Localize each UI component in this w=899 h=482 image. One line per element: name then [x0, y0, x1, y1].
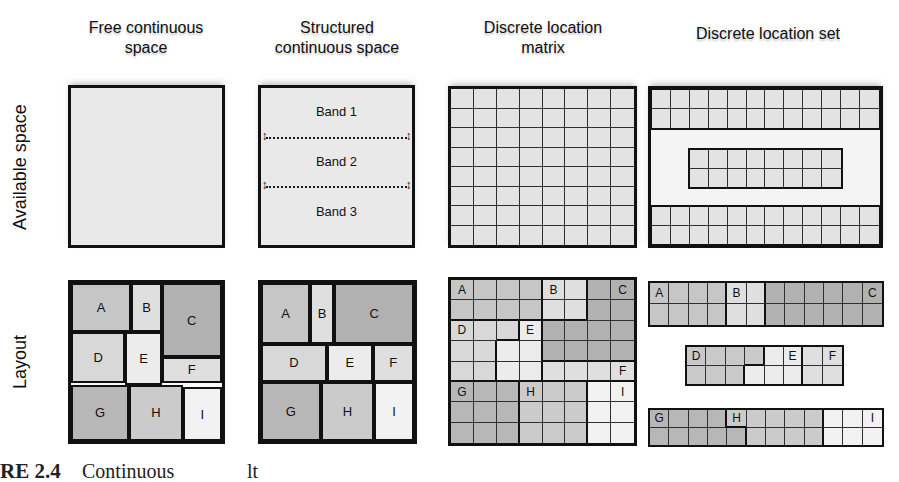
- band-1-label: Band 1: [261, 104, 412, 119]
- grid-cell: [520, 362, 543, 382]
- region-label-cell-c: C: [611, 280, 634, 300]
- grid-cell: [451, 109, 474, 129]
- grid-cell: [863, 428, 882, 446]
- grid-cell: [765, 109, 784, 128]
- region-label-cell-a: A: [650, 283, 669, 304]
- grid-cell: [726, 366, 745, 385]
- grid-cell: [745, 366, 764, 385]
- grid-cell: [588, 362, 611, 382]
- grid-cell: [497, 148, 520, 168]
- grid-cell: [689, 410, 708, 428]
- grid-cell: [803, 207, 822, 225]
- header-line: Structured: [275, 18, 400, 38]
- grid-cell: [588, 226, 611, 246]
- grid-cell: [669, 428, 688, 446]
- grid-cell: [588, 321, 611, 341]
- region-label-cell-b: B: [543, 280, 566, 300]
- layout-free-panel: ABCDEFGHI: [68, 280, 225, 444]
- grid-cell: [708, 410, 727, 428]
- grid-cell: [611, 148, 634, 168]
- grid-cell: [747, 169, 766, 187]
- grid-cell: [824, 410, 843, 428]
- header-line: Discrete location set: [696, 24, 840, 44]
- grid-cell: [520, 89, 543, 109]
- row-label-available-space: Available space: [10, 104, 31, 230]
- grid-cell: [671, 207, 690, 225]
- grid-cell: [765, 366, 784, 385]
- region-label-cell-d: D: [687, 347, 706, 366]
- grid-cell: [803, 109, 822, 128]
- region-label-cell-b: B: [727, 283, 746, 304]
- header-line: matrix: [484, 38, 602, 58]
- layout-block-e: E: [327, 344, 373, 382]
- grid-cell: [520, 423, 543, 443]
- grid-cell: [671, 226, 690, 244]
- grid-cell: [497, 206, 520, 226]
- grid-cell: [747, 410, 766, 428]
- grid-cell: [784, 109, 803, 128]
- grid-cell: [474, 148, 497, 168]
- grid-cell: [843, 428, 862, 446]
- grid-cell: [784, 150, 803, 168]
- grid-cell: [497, 341, 520, 361]
- grid-cell: [766, 283, 785, 304]
- region-label-cell-a: A: [451, 280, 474, 300]
- caption-fragment: RE 2.4: [0, 459, 61, 482]
- grid-cell: [784, 366, 803, 385]
- region-label-cell-f: F: [611, 362, 634, 382]
- grid-cell: [520, 402, 543, 422]
- grid-cell: [652, 90, 671, 109]
- grid-cell: [474, 402, 497, 422]
- layout-block-f: F: [373, 344, 414, 382]
- grid-cell: [747, 109, 766, 128]
- grid-cell: [588, 341, 611, 361]
- grid-cell: [543, 341, 566, 361]
- grid-cell: [803, 90, 822, 109]
- grid-cell: [611, 321, 634, 341]
- layout-set-top-band: ABC: [648, 281, 884, 327]
- grid-cell: [451, 402, 474, 422]
- grid-cell: [543, 423, 566, 443]
- grid-cell: [611, 109, 634, 129]
- layout-block-h: H: [129, 385, 183, 441]
- band-divider-arrow: ↕ ↕: [266, 137, 408, 139]
- grid-cell: [474, 187, 497, 207]
- grid-cell: [822, 207, 841, 225]
- grid-cell: [803, 226, 822, 244]
- grid-cell: [784, 90, 803, 109]
- grid-cell: [543, 402, 566, 422]
- available-set-panel: [648, 86, 883, 248]
- grid-cell: [784, 169, 803, 187]
- grid-cell: [728, 226, 747, 244]
- grid-cell: [474, 280, 497, 300]
- grid-cell: [588, 148, 611, 168]
- grid-cell: [709, 207, 728, 225]
- grid-cell: [689, 304, 708, 325]
- region-label-cell-i: I: [863, 410, 882, 428]
- grid-cell: [706, 347, 725, 366]
- grid-cell: [497, 300, 520, 320]
- header-line: space: [89, 38, 204, 58]
- grid-cell: [822, 150, 841, 168]
- region-label-cell-e: E: [520, 321, 543, 341]
- grid-cell: [863, 304, 882, 325]
- layout-block-a: A: [71, 283, 131, 332]
- grid-cell: [588, 109, 611, 129]
- grid-cell: [588, 423, 611, 443]
- grid-cell: [543, 89, 566, 109]
- grid-cell: [728, 169, 747, 187]
- grid-cell: [690, 90, 709, 109]
- layout-block-b: B: [131, 283, 161, 332]
- grid-cell: [497, 89, 520, 109]
- region-label-cell-h: H: [727, 410, 746, 428]
- available-set-middle-grid: [688, 148, 844, 189]
- grid-cell: [687, 366, 706, 385]
- caption-fragment: lt: [247, 460, 258, 482]
- grid-cell: [451, 362, 474, 382]
- region-label-cell-g: G: [650, 410, 669, 428]
- grid-cell: [747, 283, 766, 304]
- grid-cell: [785, 283, 804, 304]
- grid-cell: [860, 226, 879, 244]
- grid-cell: [497, 423, 520, 443]
- grid-cell: [588, 300, 611, 320]
